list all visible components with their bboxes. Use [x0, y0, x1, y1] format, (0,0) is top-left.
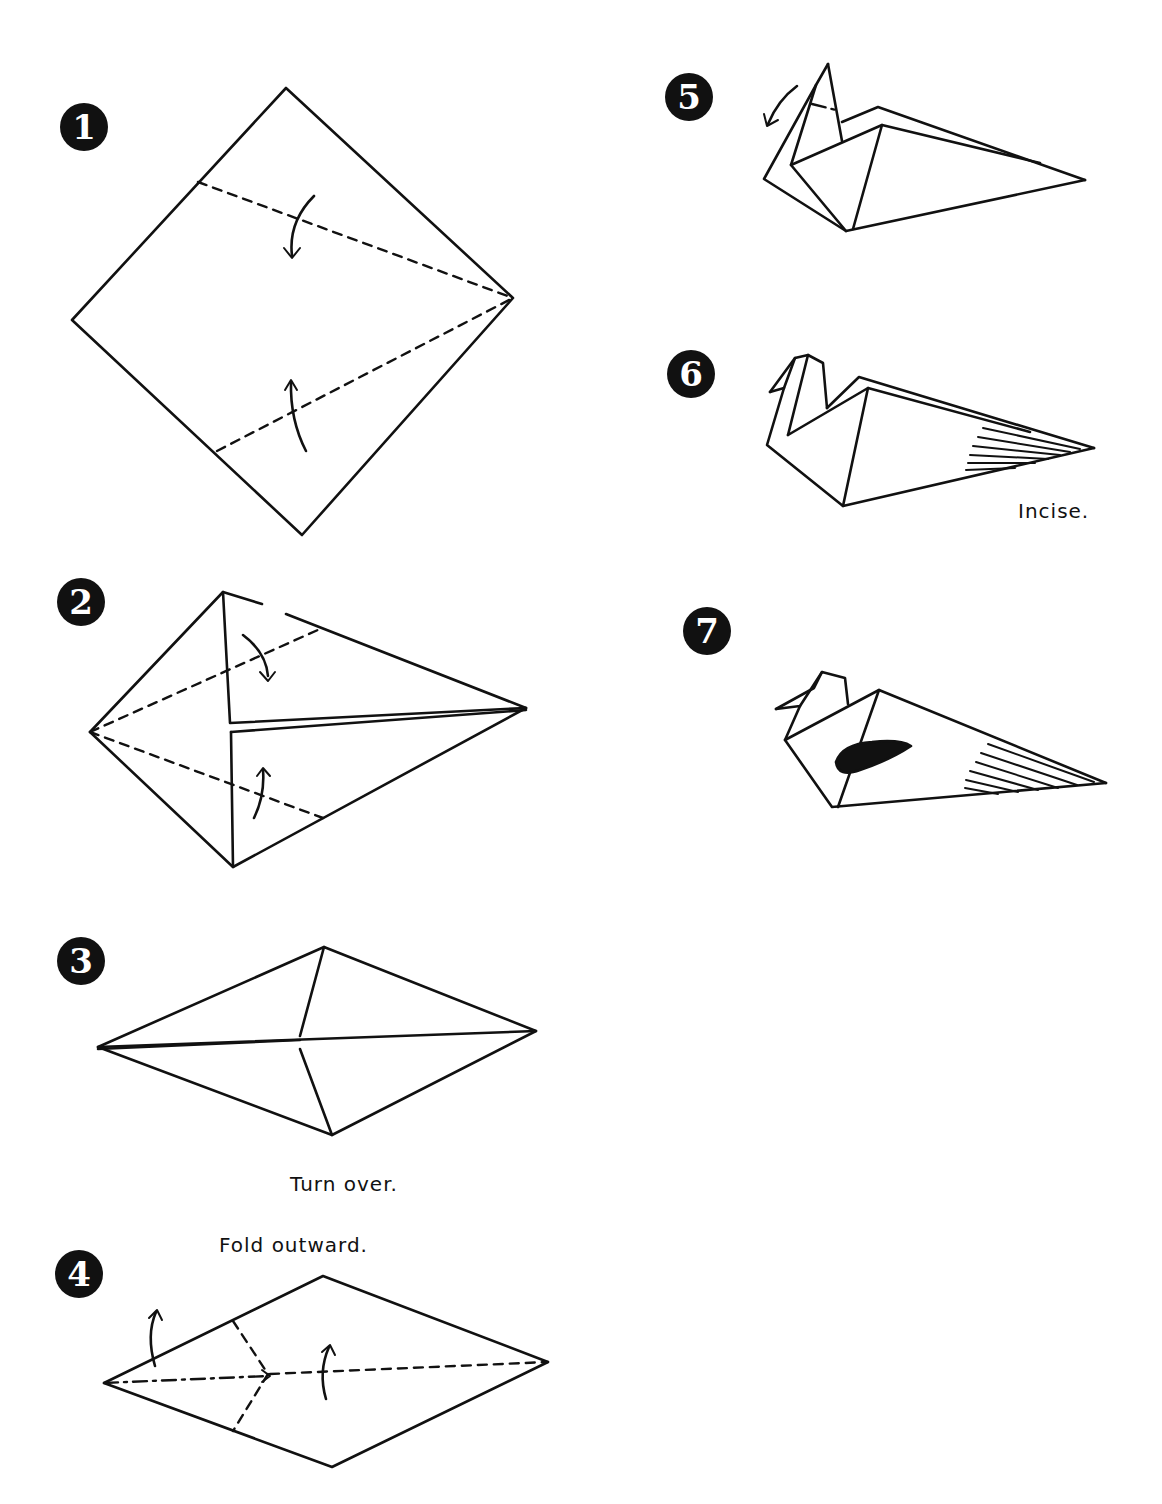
- valley-fold-line: [90, 629, 320, 732]
- wing-top: [791, 125, 1040, 165]
- neck-inner: [791, 85, 846, 231]
- mountain-fold-line: [812, 104, 836, 110]
- head-outline: [770, 355, 827, 408]
- fold-arrow-icon: [291, 196, 314, 256]
- neck-and-belly: [785, 706, 1106, 807]
- fold-arrow-icon: [323, 1347, 329, 1399]
- head-outline: [776, 672, 848, 709]
- step-3-diagram: [98, 947, 536, 1135]
- upper-flap-edge: [300, 947, 324, 1036]
- valley-fold-line: [233, 1321, 268, 1374]
- mountain-fold-line: [104, 1376, 268, 1383]
- upper-flap: [223, 592, 526, 723]
- fold-arrow-icon: [768, 86, 797, 124]
- valley-fold-line: [217, 298, 513, 451]
- wing-patch: [836, 741, 911, 773]
- step-6-diagram: [767, 355, 1094, 506]
- square-paper-outline: [72, 88, 513, 535]
- beak: [776, 672, 822, 709]
- center-crease: [98, 1031, 536, 1047]
- lower-flap-edge: [300, 1049, 332, 1135]
- fold-arrow-icon: [291, 382, 306, 451]
- swan-outer-outline: [764, 64, 1085, 231]
- step-2-diagram: [90, 592, 526, 867]
- wing-crease: [843, 388, 868, 506]
- valley-fold-line: [198, 182, 513, 298]
- step-7-diagram: [776, 672, 1106, 807]
- wing-top: [788, 388, 1030, 435]
- wing-crease: [853, 125, 882, 229]
- diagram-canvas: [0, 0, 1162, 1504]
- neck-front: [828, 64, 842, 141]
- tail-incisions: [966, 428, 1080, 470]
- step-1-diagram: [72, 88, 513, 535]
- lower-flap-edge: [231, 732, 233, 867]
- valley-fold-line: [90, 732, 323, 818]
- top-edge: [286, 614, 526, 708]
- step-5-diagram: [764, 64, 1085, 231]
- outer-outline: [90, 592, 526, 867]
- valley-fold-line: [270, 1362, 548, 1374]
- fold-arrow-icon: [243, 635, 268, 676]
- valley-fold-line: [233, 1374, 268, 1431]
- step-4-diagram: [104, 1276, 548, 1467]
- center-crease-lower: [98, 1040, 300, 1049]
